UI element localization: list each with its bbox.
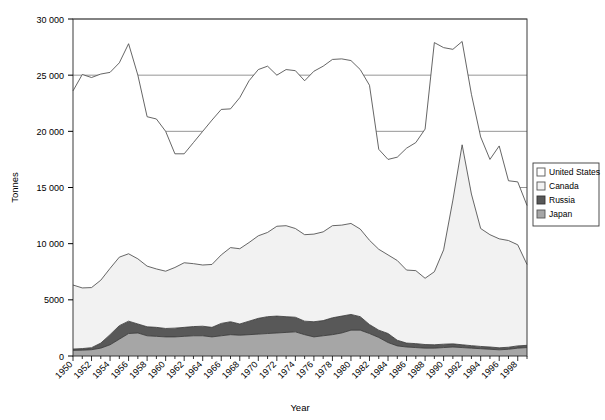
legend-swatch bbox=[537, 210, 545, 218]
y-tick-label: 15 000 bbox=[36, 183, 64, 193]
legend-swatch bbox=[537, 168, 545, 176]
legend-label: Japan bbox=[549, 209, 572, 219]
legend-swatch bbox=[537, 182, 545, 190]
y-tick-label: 0 bbox=[59, 352, 64, 362]
legend-label: Canada bbox=[549, 181, 579, 191]
legend-label: Russia bbox=[549, 195, 575, 205]
legend-label: United States bbox=[549, 167, 600, 177]
y-tick-label: 10 000 bbox=[36, 239, 64, 249]
y-tick-label: 25 000 bbox=[36, 71, 64, 81]
y-axis-title: Tonnes bbox=[9, 172, 20, 203]
x-axis-title: Year bbox=[290, 402, 309, 413]
y-tick-label: 30 000 bbox=[36, 15, 64, 25]
legend: United StatesCanadaRussiaJapan bbox=[533, 163, 600, 226]
stacked-area-chart: 0500010 00015 00020 00025 00030 000 1950… bbox=[0, 0, 605, 420]
chart-figure: 0500010 00015 00020 00025 00030 000 1950… bbox=[0, 0, 605, 420]
y-tick-label: 5000 bbox=[44, 295, 64, 305]
y-tick-label: 20 000 bbox=[36, 127, 64, 137]
legend-swatch bbox=[537, 196, 545, 204]
